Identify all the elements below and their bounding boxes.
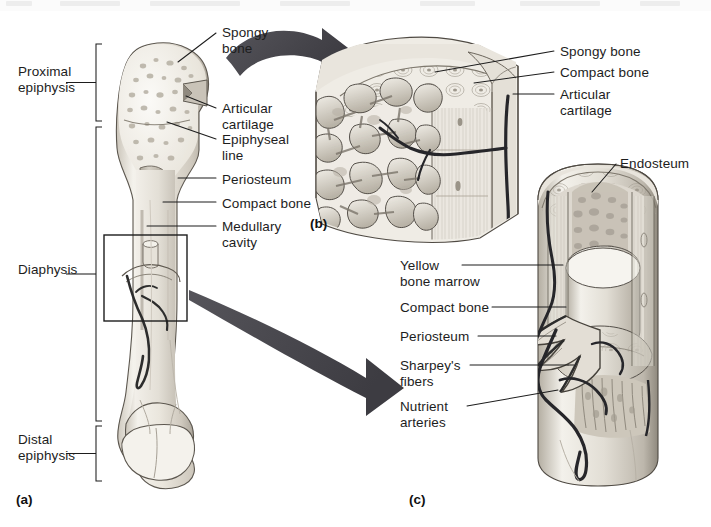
bracket-label-proximal-epiphysis: Proximal epiphysis: [18, 64, 75, 95]
scan-artifact-band: [0, 0, 711, 11]
inset-rectangle-diaphysis: [104, 235, 187, 321]
callout-label-a-periosteum: Periosteum: [222, 172, 291, 188]
panel-b-spongy-bone-block: [314, 37, 521, 248]
panel-c-diaphysis-cylinder: [522, 150, 658, 486]
arrow-a-to-c-icon: [189, 290, 404, 416]
panel-id-b: (b): [310, 216, 327, 231]
callout-label-a-articular-cartilage: Articular cartilage: [222, 101, 274, 132]
leader-c-endosteum: [592, 164, 616, 192]
leader-a-articular-cartilage: [186, 96, 216, 108]
callout-label-a-spongy-bone: Spongy bone: [222, 25, 268, 56]
callout-label-c-nutrient-arteries: Nutrient arteries: [400, 399, 448, 430]
distal-condyles: [122, 400, 195, 480]
callout-label-c-sharpeys-fibers: Sharpey's fibers: [400, 358, 461, 389]
callout-label-c-compact-bone: Compact bone: [400, 300, 489, 316]
panel-id-c: (c): [409, 492, 426, 507]
callout-label-b-compact-bone: Compact bone: [560, 65, 649, 81]
leader-a-spongy-bone: [178, 33, 216, 62]
callout-label-c-endosteum: Endosteum: [620, 156, 689, 172]
callout-label-b-articular-cartilage: Articular cartilage: [560, 87, 612, 118]
nutrient-vessel-a: [122, 241, 180, 389]
bracket-label-distal-epiphysis: Distal epiphysis: [18, 432, 75, 463]
bracket-proximal-epiphysis: [96, 44, 102, 121]
bracket-diaphysis: [96, 127, 102, 421]
figure-canvas: Spongy boneArticular cartilageEpiphyseal…: [0, 0, 711, 527]
panel-a-bone-illustration: [110, 40, 220, 489]
callout-label-a-epiphyseal-line: Epiphyseal line: [222, 132, 289, 163]
leader-b-spongy-bone: [435, 51, 554, 72]
leader-a-epiphyseal-line: [167, 122, 216, 139]
leader-b-compact-bone: [474, 72, 554, 83]
bracket-label-diaphysis: Diaphysis: [18, 262, 77, 278]
callout-label-c-periosteum: Periosteum: [400, 329, 469, 345]
panel-id-a: (a): [16, 492, 33, 507]
leader-c-nutrient-arteries: [467, 390, 558, 406]
callout-label-a-medullary-cavity: Medullary cavity: [222, 219, 281, 250]
leader-lines: [147, 33, 616, 406]
callout-label-a-compact-bone: Compact bone: [222, 196, 311, 212]
callout-label-c-yellow-bone-marrow: Yellow bone marrow: [400, 258, 480, 289]
callout-label-b-spongy-bone: Spongy bone: [560, 44, 641, 60]
bracket-distal-epiphysis: [96, 426, 102, 481]
